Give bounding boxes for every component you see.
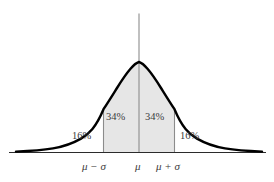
percent-label-outer-left: 16% (72, 131, 91, 142)
axis-tick-label-mu-plus-sigma: μ + σ (156, 161, 180, 172)
bell-curve-plot (0, 0, 274, 182)
normal-distribution-figure: 34% 34% 16% 16% μ − σ μ μ + σ (0, 0, 274, 182)
axis-tick-label-mu: μ (135, 161, 141, 172)
percent-label-inner-left: 34% (106, 112, 125, 123)
axis-tick-label-mu-minus-sigma: μ − σ (82, 161, 106, 172)
percent-label-inner-right: 34% (145, 112, 164, 123)
percent-label-outer-right: 16% (180, 131, 199, 142)
